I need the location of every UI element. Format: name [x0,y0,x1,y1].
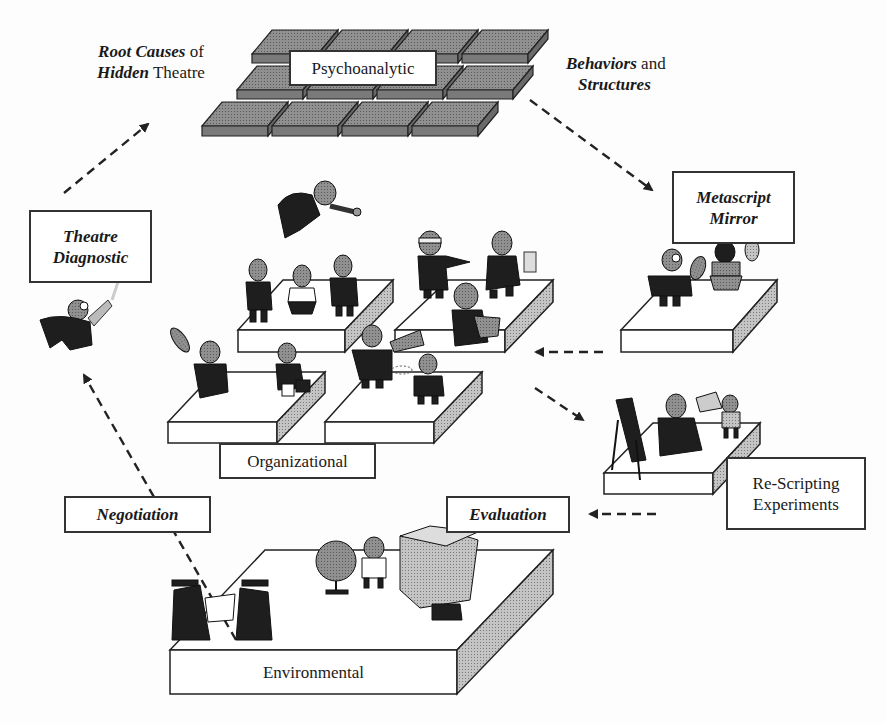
sign-figure-icon [167,325,228,398]
seated-figure-icon [658,394,702,456]
re-scripting-text: Re-Scripting Experiments [753,473,840,515]
superhero-figure-icon [278,181,361,238]
metascript-platform [621,280,777,352]
re-scripting-box: Re-Scripting Experiments [726,457,866,530]
arrow-organizational-to-rescripting [535,388,583,420]
arrow-diagnostic-to-psychoanalytic [64,124,148,193]
negotiation-box: Negotiation [64,496,211,533]
evaluation-box: Evaluation [446,496,570,533]
detective-figure-icon [40,282,118,350]
three-figures-icon [246,255,358,322]
root-causes-annotation: Root Causes of Hidden Theatre [81,41,221,83]
behaviors-annotation: Behaviors and Structures [566,53,686,95]
metascript-mirror-text: Metascript Mirror [696,187,771,229]
organizational-label: Organizational [219,443,376,479]
psychoanalytic-label: Psychoanalytic [289,50,437,86]
metascript-mirror-box: Metascript Mirror [672,171,795,244]
theatre-diagnostic-text: Theatre Diagnostic [53,226,129,268]
arrow-psychoanalytic-to-metascript [530,100,652,190]
environmental-label: Environmental [171,651,456,694]
theatre-diagnostic-box: Theatre Diagnostic [29,210,152,283]
